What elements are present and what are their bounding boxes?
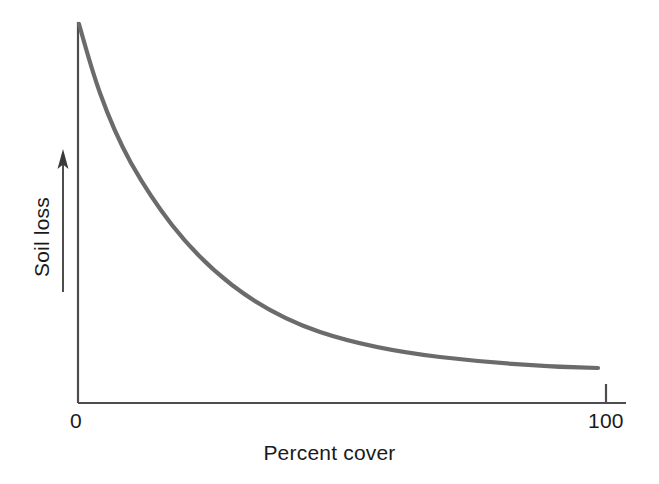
x-axis-tick-label-0: 0 xyxy=(70,409,82,433)
y-axis-title: Soil loss xyxy=(30,182,54,292)
data-curve-soil-loss xyxy=(79,24,598,368)
x-axis-tick-label-100: 100 xyxy=(588,409,624,433)
x-axis-title: Percent cover xyxy=(0,441,659,465)
chart-figure: 0 100 Percent cover Soil loss xyxy=(0,0,659,484)
chart-plot-area xyxy=(0,0,659,484)
